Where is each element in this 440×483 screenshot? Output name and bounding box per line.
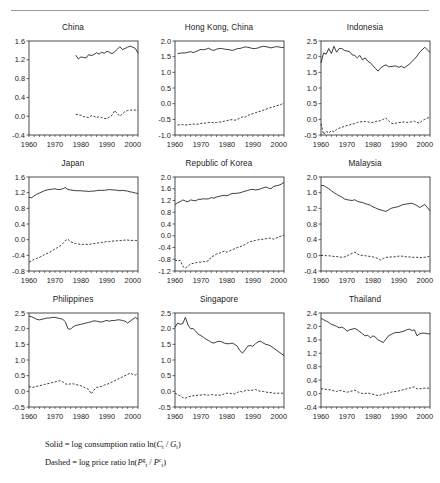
plot-area: -0.50.00.51.01.52.02.5196019701980199020… [146,307,292,425]
y-tick-label: 0.5 [161,84,171,93]
chart-panel-singapore: Singapore-0.50.00.51.01.52.02.5196019701… [146,294,292,430]
x-tick-label: 1960 [21,140,37,149]
x-tick-label: 2000 [417,140,433,149]
x-tick-label: 1980 [219,140,235,149]
x-tick-label: 1960 [313,140,329,149]
x-tick-label: 1980 [365,140,381,149]
y-tick-label: 0.0 [161,231,171,240]
x-tick-label: 1990 [391,412,407,421]
x-tick-label: 1970 [47,140,63,149]
x-tick-label: 1980 [365,276,381,285]
y-tick-label: 1.6 [161,184,171,193]
x-tick-label: 1970 [193,412,209,421]
chart-panel-china: China-0.40.00.40.81.21.61960197019801990… [0,22,146,158]
axes-frame [175,41,284,135]
x-tick-label: 1960 [167,276,183,285]
legend-dashed-line: Dashed = log price ratio ln(Pgt / Pct) [45,454,365,472]
y-tick-label: 1.6 [307,188,317,197]
y-tick-label: -0.8 [12,267,25,276]
series-log-consumption-ratio [175,317,284,355]
x-tick-label: 1970 [339,276,355,285]
legend-solid-line: Solid = log consumption ratio ln(Ct / Gt… [45,438,365,454]
x-tick-label: 1960 [167,140,183,149]
x-tick-label: 1960 [21,412,37,421]
panel-title: Singapore [146,295,292,304]
y-tick-label: 2.0 [307,52,317,61]
x-tick-label: 1970 [339,140,355,149]
x-tick-label: 1960 [313,276,329,285]
y-tick-label: 0.0 [15,112,25,121]
y-tick-label: 0.5 [307,99,317,108]
legend-solid-text: Solid = log consumption ratio ln( [45,440,157,449]
panel-title: Malaysia [292,159,438,168]
y-tick-label: -0.4 [304,267,317,276]
y-tick-label: 0.4 [307,235,317,244]
x-tick-label: 1990 [99,276,115,285]
y-tick-label: 1.6 [307,335,317,344]
y-tick-label: 0.0 [161,387,171,396]
y-tick-label: 2.4 [307,309,317,318]
series-log-price-ratio [175,389,284,398]
plot-area: -1.2-0.8-0.40.00.40.81.21.62.01960197019… [146,171,292,289]
y-tick-label: 1.5 [307,68,317,77]
y-tick-label: 0.0 [307,251,317,260]
y-tick-label: 1.2 [307,204,317,213]
x-tick-label: 1990 [391,140,407,149]
plot-area: -0.50.00.51.01.52.02.5196019701980199020… [0,307,146,425]
x-tick-label: 1980 [365,412,381,421]
y-tick-label: 2.0 [161,37,171,46]
x-tick-label: 1990 [391,276,407,285]
x-tick-label: 1990 [245,276,261,285]
y-tick-label: -0.8 [158,255,171,264]
y-tick-label: 0.0 [15,235,25,244]
y-tick-label: -0.5 [12,403,25,412]
y-tick-label: 1.0 [307,84,317,93]
y-tick-label: -0.5 [158,403,171,412]
chart-panel-republic-of-korea: Republic of Korea-1.2-0.8-0.40.00.40.81.… [146,158,292,294]
y-tick-label: 0.4 [161,220,171,229]
y-tick-label: 2.0 [15,324,25,333]
series-log-price-ratio [76,110,138,118]
series-log-consumption-ratio [29,188,138,198]
y-tick-label: 0.4 [307,376,317,385]
series-log-consumption-ratio [76,46,138,59]
y-tick-label: 0.0 [307,389,317,398]
panel-title: Republic of Korea [146,159,292,168]
x-tick-label: 1970 [339,412,355,421]
axes-frame [175,177,284,271]
y-tick-label: -0.5 [158,115,171,124]
x-tick-label: 1990 [245,412,261,421]
y-tick-label: 2.0 [161,324,171,333]
chart-panel-thailand: Thailand-0.40.00.40.81.21.62.02.41960197… [292,294,438,430]
series-log-price-ratio [175,235,284,268]
x-tick-label: 2000 [125,140,141,149]
y-tick-label: 1.0 [15,356,25,365]
y-tick-label: 0.4 [15,220,25,229]
y-tick-label: 1.0 [161,356,171,365]
x-tick-label: 1970 [193,276,209,285]
y-tick-label: 0.0 [307,115,317,124]
x-tick-label: 2000 [271,276,287,285]
x-tick-label: 2000 [271,412,287,421]
y-tick-label: 1.2 [307,349,317,358]
chart-panel-japan: Japan-0.8-0.40.00.40.81.21.6196019701980… [0,158,146,294]
plot-area: -0.40.00.40.81.21.62.0196019701980199020… [292,171,438,289]
x-tick-label: 1970 [47,276,63,285]
y-tick-label: 0.5 [15,371,25,380]
y-tick-label: 1.6 [15,173,25,182]
series-log-price-ratio [178,103,284,125]
y-tick-label: -0.5 [304,131,317,140]
axes-frame [321,41,430,135]
y-tick-label: 0.8 [161,208,171,217]
x-tick-label: 2000 [417,276,433,285]
series-log-consumption-ratio [321,186,430,212]
x-tick-label: 1960 [313,412,329,421]
x-tick-label: 1980 [219,276,235,285]
y-tick-label: 1.2 [15,55,25,64]
axes-frame [29,313,138,407]
x-tick-label: 1980 [219,412,235,421]
panel-title: China [0,23,146,32]
y-tick-label: 1.5 [15,340,25,349]
plot-area: -0.40.00.40.81.21.619601970198019902000 [0,35,146,153]
y-tick-label: -0.4 [304,403,317,412]
